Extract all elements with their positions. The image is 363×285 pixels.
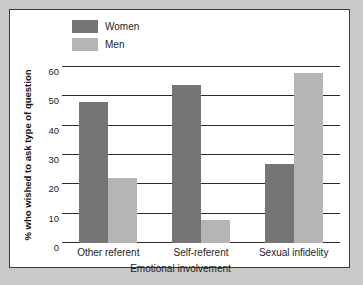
bar-men-0: [108, 178, 137, 243]
legend-swatch-women: [72, 20, 98, 33]
bar-women-0: [79, 102, 108, 243]
bar-women-1: [172, 85, 201, 243]
chart-figure: Women Men % who wished to ask type of qu…: [9, 9, 350, 268]
y-tick-label-20: 20: [48, 184, 59, 194]
y-axis-title: % who wished to ask type of question: [22, 67, 36, 243]
bar-group: [155, 67, 248, 243]
x-tick-label-2: Sexual infidelity: [247, 247, 340, 258]
bar-group: [62, 67, 155, 243]
y-tick-label-10: 10: [48, 214, 59, 224]
chart-legend: Women Men: [72, 19, 192, 55]
bar-groups: [62, 67, 340, 243]
legend-label-women: Women: [105, 20, 139, 33]
bar-men-1: [201, 220, 230, 243]
y-tick-label-40: 40: [48, 126, 59, 136]
legend-item-men: Men: [72, 37, 192, 52]
bar-group: [247, 67, 340, 243]
y-tick-label-0: 0: [54, 243, 59, 253]
y-tick-label-30: 30: [48, 155, 59, 165]
bar-women-2: [265, 164, 294, 243]
bar-men-2: [294, 73, 323, 243]
x-tick-label-1: Self-referent: [155, 247, 248, 258]
y-tick-label-50: 50: [48, 96, 59, 106]
plot-area: 0102030405060: [62, 67, 340, 243]
legend-item-women: Women: [72, 19, 192, 34]
y-tick-label-60: 60: [48, 67, 59, 77]
x-axis-title: Emotional involvement: [10, 263, 351, 274]
legend-swatch-men: [72, 38, 98, 51]
legend-label-men: Men: [105, 38, 124, 51]
x-tick-label-0: Other referent: [62, 247, 155, 258]
